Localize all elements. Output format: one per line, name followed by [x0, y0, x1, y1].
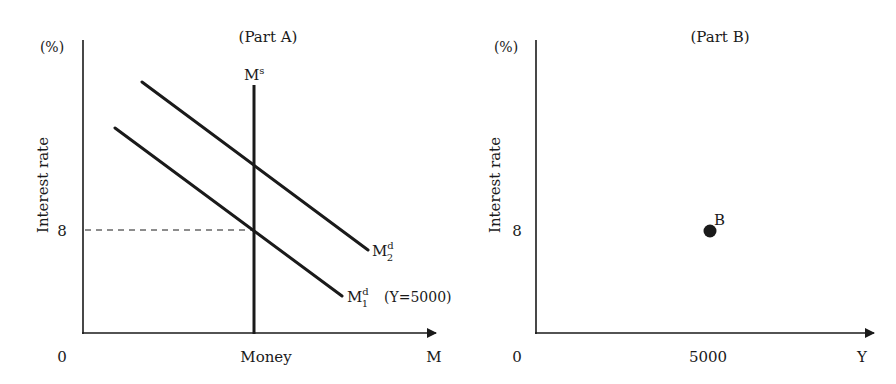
part-a-y-tick-8: 8 — [57, 222, 67, 240]
part-a-y-label: Interest rate — [34, 137, 52, 233]
part-b-y-label: Interest rate — [486, 137, 504, 233]
money-demand-1-line — [115, 128, 342, 296]
m2d-label: Md2 — [372, 240, 394, 263]
part-b-title: (Part B) — [690, 28, 749, 46]
figure: (Part A) (%) Interest rate 8 0 Money M M… — [0, 0, 896, 384]
ms-label: Ms — [244, 65, 265, 84]
part-a-x-label: Money — [240, 348, 292, 366]
part-a-chart: (Part A) (%) Interest rate 8 0 Money M M… — [34, 28, 452, 366]
part-b-x-end-label: Y — [856, 348, 868, 366]
part-a-origin-label: 0 — [57, 348, 67, 366]
m1d-income-note: (Y=5000) — [384, 289, 452, 305]
point-b-label: B — [714, 211, 725, 229]
part-a-title: (Part A) — [239, 28, 298, 46]
part-b-y-unit: (%) — [494, 39, 518, 55]
part-a-y-unit: (%) — [40, 39, 64, 55]
part-b-chart: (Part B) (%) Interest rate 8 0 5000 Y B — [486, 28, 874, 366]
part-b-x-tick-5000: 5000 — [689, 348, 727, 366]
part-a-x-end-label: M — [426, 348, 441, 366]
m1d-label: Md1 — [347, 286, 369, 309]
part-b-y-tick-8: 8 — [512, 222, 522, 240]
part-b-origin-label: 0 — [512, 348, 522, 366]
